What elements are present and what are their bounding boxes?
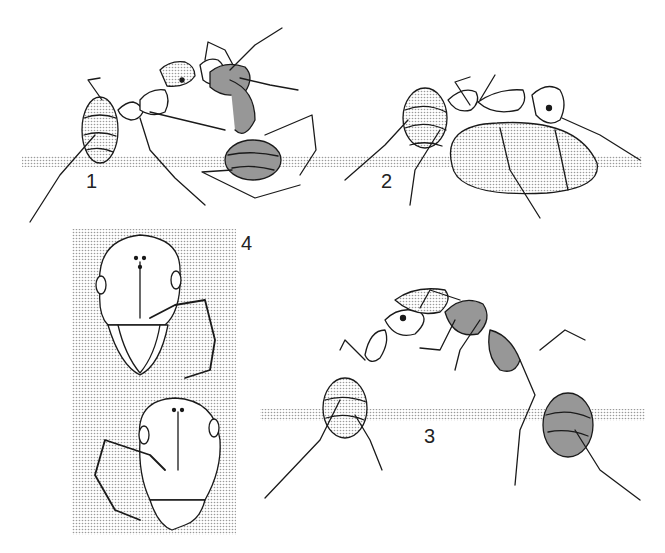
panel-label-2: 2 xyxy=(381,170,392,193)
panel1-ant-left xyxy=(30,42,240,222)
panel2-ant xyxy=(345,75,640,218)
panel-label-4: 4 xyxy=(241,232,252,255)
panel-label-1: 1 xyxy=(86,170,97,193)
panel3-ant-right xyxy=(420,300,640,500)
illustration-canvas xyxy=(0,0,665,553)
panel3-ant-left xyxy=(265,289,460,498)
panel-label-3: 3 xyxy=(424,425,435,448)
panel1-ant-right xyxy=(202,28,316,198)
